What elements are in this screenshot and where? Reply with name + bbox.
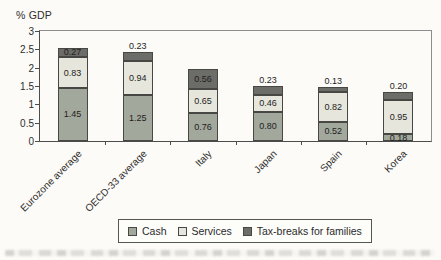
legend-label: Tax-breaks for families (257, 225, 362, 237)
bar-value-label: 0.82 (315, 102, 351, 112)
y-tick-label: 1.5 (6, 81, 34, 92)
y-tick-mark (35, 123, 39, 124)
bar-value-label: 0.13 (315, 76, 351, 86)
bar-segment-tax-breaks-for-families (123, 52, 153, 60)
bar-value-label: 0.20 (380, 81, 416, 91)
y-tick-label: 2.5 (6, 44, 34, 55)
y-tick-label: 0.5 (6, 118, 34, 129)
y-tick-mark (35, 141, 39, 142)
x-tick-mark (366, 141, 367, 145)
bar-value-label: 0.52 (315, 126, 351, 136)
bar-value-label: 0.27 (55, 47, 91, 57)
bar-value-label: 0.95 (380, 112, 416, 122)
y-tick-mark (35, 86, 39, 87)
legend-swatch-icon (128, 227, 137, 236)
legend-label: Services (192, 225, 232, 237)
y-tick-label: 0 (6, 136, 34, 147)
y-tick-mark (35, 49, 39, 50)
y-tick-label: 2 (6, 63, 34, 74)
legend-item: Cash (128, 225, 167, 237)
bar-value-label: 0.23 (250, 75, 286, 85)
bar-value-label: 0.76 (185, 122, 221, 132)
plot-area: 32.521.510.501.450.830.27Eurozone averag… (39, 30, 432, 142)
x-tick-mark (105, 141, 106, 145)
bar-value-label: 0.23 (120, 41, 156, 51)
legend-item: Tax-breaks for families (243, 225, 362, 237)
bar-value-label: 1.45 (55, 109, 91, 119)
bar-segment-tax-breaks-for-families (318, 87, 348, 92)
bar-value-label: 0.94 (120, 73, 156, 83)
y-axis-title: % GDP (16, 9, 52, 21)
bar-value-label: 1.25 (120, 113, 156, 123)
legend: CashServicesTax-breaks for families (118, 219, 372, 243)
bar-value-label: 0.83 (55, 68, 91, 78)
x-tick-mark (301, 141, 302, 145)
legend-item: Services (178, 225, 232, 237)
y-tick-label: 1 (6, 99, 34, 110)
bar-segment-tax-breaks-for-families (383, 92, 413, 99)
y-tick-mark (35, 104, 39, 105)
legend-swatch-icon (243, 227, 252, 236)
legend-label: Cash (142, 225, 167, 237)
bar-value-label: 0.56 (185, 74, 221, 84)
legend-swatch-icon (178, 227, 187, 236)
x-tick-mark (236, 141, 237, 145)
bar-segment-tax-breaks-for-families (253, 86, 283, 94)
ghost-caption-line (5, 250, 435, 256)
y-tick-mark (35, 31, 39, 32)
y-tick-mark (35, 68, 39, 69)
bar-value-label: 0.80 (250, 121, 286, 131)
bar-value-label: 0.46 (250, 98, 286, 108)
scanned-chart-page: % GDP 32.521.510.501.450.830.27Eurozone … (0, 0, 441, 260)
y-tick-label: 3 (6, 26, 34, 37)
bar-value-label: 0.65 (185, 96, 221, 106)
x-tick-mark (170, 141, 171, 145)
